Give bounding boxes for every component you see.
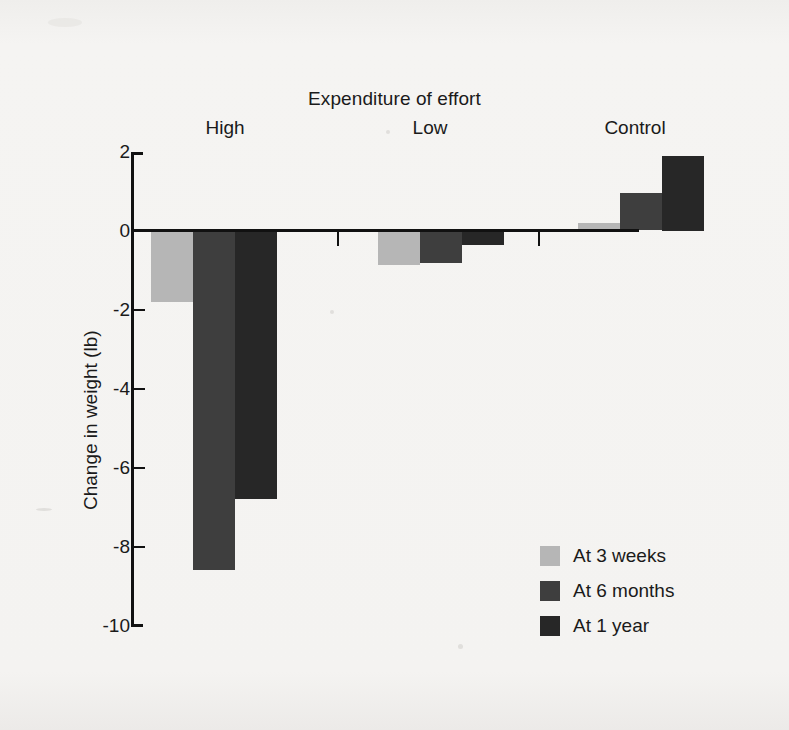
bar-high-1year xyxy=(235,231,277,499)
group-label-control: Control xyxy=(560,117,710,139)
y-tick-label-2: 2 xyxy=(78,141,130,163)
legend-label-6-months: At 6 months xyxy=(573,580,674,602)
y-tick-m2 xyxy=(134,309,145,311)
bar-low-6months xyxy=(420,231,462,263)
bar-control-6months xyxy=(620,193,662,230)
chart-title: Expenditure of effort xyxy=(0,88,789,110)
figure-container: Expenditure of effort High Low Control C… xyxy=(0,0,789,730)
bar-control-1year xyxy=(662,156,704,231)
bar-low-3weeks xyxy=(378,231,420,265)
y-axis-label: Change in weight (lb) xyxy=(80,330,102,510)
bar-high-6months xyxy=(193,231,235,570)
group-label-low: Low xyxy=(355,117,505,139)
group-label-high: High xyxy=(150,117,300,139)
y-tick-m8 xyxy=(134,546,145,548)
legend-item-3-weeks[interactable]: At 3 weeks xyxy=(540,545,666,567)
group-separator-tick-1 xyxy=(337,232,339,246)
bar-low-1year xyxy=(462,231,504,245)
y-axis-bottom-cap xyxy=(131,624,143,627)
legend-swatch-3-weeks xyxy=(540,546,560,566)
y-tick-label-m6: -6 xyxy=(78,457,130,479)
y-tick-label-m10: -10 xyxy=(78,615,130,637)
legend-label-3-weeks: At 3 weeks xyxy=(573,545,666,567)
x-axis-zero-line xyxy=(131,229,639,232)
y-tick-m4 xyxy=(134,388,145,390)
y-axis-top-cap xyxy=(131,152,143,155)
group-separator-tick-2 xyxy=(538,232,540,246)
y-tick-m6 xyxy=(134,467,145,469)
y-tick-label-m4: -4 xyxy=(78,378,130,400)
plot-area: Expenditure of effort High Low Control C… xyxy=(0,0,789,730)
legend: At 3 weeks At 6 months At 1 year xyxy=(540,545,750,645)
legend-swatch-1-year xyxy=(540,616,560,636)
legend-label-1-year: At 1 year xyxy=(573,615,649,637)
y-tick-label-m8: -8 xyxy=(78,536,130,558)
bar-high-3weeks xyxy=(151,231,193,302)
y-tick-label-0: 0 xyxy=(78,220,130,242)
legend-item-1-year[interactable]: At 1 year xyxy=(540,615,649,637)
y-tick-label-m2: -2 xyxy=(78,299,130,321)
legend-item-6-months[interactable]: At 6 months xyxy=(540,580,674,602)
legend-swatch-6-months xyxy=(540,581,560,601)
